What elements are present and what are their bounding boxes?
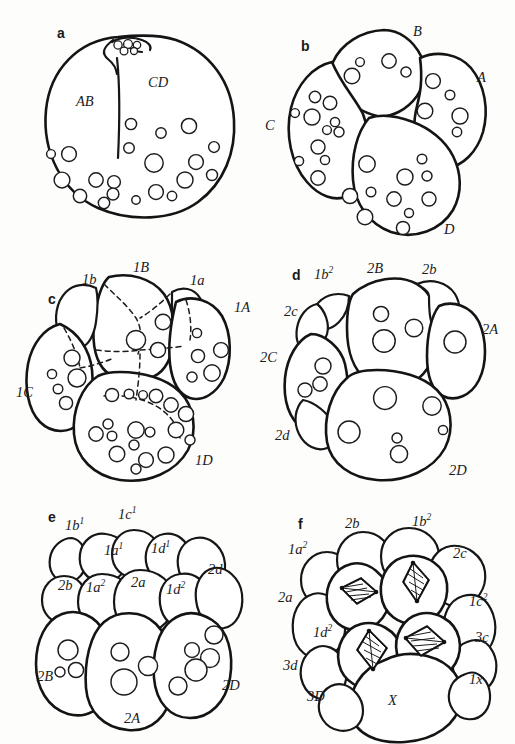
yolk-granule [366,187,376,197]
yolk-granule [387,192,401,206]
panel-e-label-1a1: 1a1 [104,543,123,558]
yolk-granule [452,127,461,136]
panel-a-letter: a [57,25,65,41]
yolk-granule [139,391,148,400]
embryology-cleavage-figure: a [0,0,515,744]
yolk-granule [89,173,103,187]
yolk-granule [417,154,427,164]
yolk-granule [417,103,433,119]
panel-c-label-1B: 1B [133,260,149,275]
panel-d-drawing [257,250,515,490]
yolk-granule [167,191,176,200]
yolk-granule [209,142,220,153]
yolk-granule [392,433,402,443]
yolk-granule [111,643,129,661]
panel-c-label-1C: 1C [16,385,33,400]
panel-f-label-2c: 2c [453,546,467,561]
yolk-granule [98,197,109,208]
yolk-granule [401,67,411,77]
panel-f-label-3c: 3c [475,630,489,645]
yolk-granule [125,118,136,129]
panel-c-label-1a: 1a [190,273,205,288]
panel-f-drawing [257,490,515,744]
yolk-granule [373,330,395,352]
panel-b-drawing [257,0,515,250]
yolk-granule [58,640,78,660]
yolk-granule [356,58,365,67]
panel-d: d [257,250,515,490]
yolk-granule [108,176,121,189]
yolk-granule [138,656,157,675]
yolk-granule [131,464,141,474]
yolk-granule [342,188,357,203]
yolk-granule [214,343,229,358]
yolk-granule [158,447,174,463]
yolk-granule [149,389,163,403]
yolk-granule [155,314,171,330]
panel-e-label-1c1: 1c1 [118,507,136,522]
yolk-granule [185,659,207,681]
yolk-granule [73,189,86,202]
yolk-granule [359,156,375,172]
yolk-granule [53,384,63,394]
yolk-granule [168,422,184,438]
panel-f-label-1d2: 1d2 [313,625,332,640]
panel-e-label-2B: 2B [37,669,53,684]
panel-e: e [0,490,257,744]
panel-f-label-2a: 2a [278,590,293,605]
yolk-granule [323,126,332,135]
yolk-granule [315,358,331,374]
yolk-granule [189,155,204,170]
panel-c: c [0,250,257,490]
panel-d-label-2B: 2B [367,261,383,276]
panel-e-label-1d1: 1d1 [151,541,170,556]
yolk-granule [357,209,373,225]
yolk-granule [311,171,325,185]
panel-e-label-1a2: 1a2 [86,580,105,595]
panel-f-label-1b2: 1b2 [412,514,431,529]
yolk-granule [89,427,103,441]
yolk-granule [145,154,163,172]
yolk-granule [149,185,164,200]
yolk-granule [105,388,118,401]
yolk-granule [59,396,72,409]
panel-d-label-1b2: 1b2 [314,267,333,282]
yolk-granule [291,109,300,118]
panel-e-label-2A: 2A [124,711,140,726]
polar-body [131,48,138,55]
yolk-granule [132,196,140,204]
panel-a-label-cd: CD [148,75,168,90]
panel-e-drawing [0,490,257,744]
panel-f-label-1a2: 1a2 [288,542,307,557]
panel-a: a [0,0,257,250]
yolk-granule [103,419,113,429]
yolk-granule [334,127,344,137]
yolk-granule [311,140,325,154]
yolk-granule [55,667,65,677]
panel-c-letter: c [48,291,56,307]
panel-e-label-2D: 2D [222,678,240,693]
panel-d-label-2b: 2b [422,262,437,277]
yolk-granule [111,669,137,695]
yolk-granule [452,108,468,124]
panel-e-label-2d: 2d [208,562,223,577]
panel-b-label-D: D [444,222,454,237]
panel-f-label-3d: 3d [283,658,298,673]
yolk-granule [323,96,337,110]
yolk-granule [298,383,312,397]
yolk-granule [426,74,441,89]
polar-body [120,47,128,55]
panel-e-label-1d2: 1d2 [166,582,185,597]
panel-e-label-2b: 2b [58,578,73,593]
yolk-granule [128,422,144,438]
panel-f-label-1c2: 1c2 [469,594,487,609]
yolk-granule [313,377,327,391]
yolk-granule [390,445,407,462]
yolk-granule [185,643,200,658]
yolk-granule [422,192,436,206]
panel-f-label-1x: 1x [469,672,483,687]
yolk-granule [304,109,320,125]
panel-d-label-2c: 2c [284,304,298,319]
egg-outline-a [45,35,234,217]
yolk-granule [320,155,329,164]
